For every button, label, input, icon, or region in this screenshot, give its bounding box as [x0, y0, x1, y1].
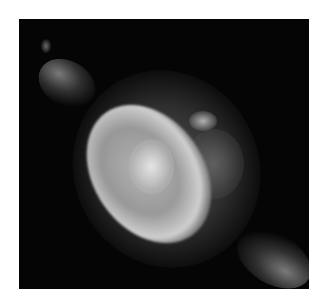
nebula-jet-upper-left-tip	[41, 39, 51, 53]
nebula-image	[19, 19, 309, 289]
nebula-bright-knot	[189, 111, 217, 131]
nebula-core	[129, 139, 174, 194]
